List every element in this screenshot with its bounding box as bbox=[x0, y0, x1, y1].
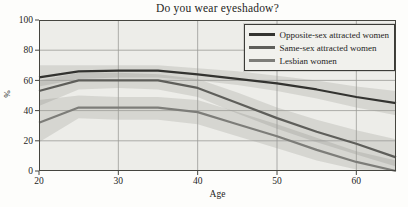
y-tick-label: 80 bbox=[24, 45, 34, 55]
y-axis-label: % bbox=[2, 90, 12, 98]
legend-line-swatch-same-sex bbox=[249, 46, 275, 50]
x-tick-label: 20 bbox=[34, 176, 44, 186]
legend-line-swatch-lesbian bbox=[249, 59, 275, 63]
chart-title: Do you wear eyeshadow? bbox=[39, 2, 396, 14]
legend-label: Lesbian women bbox=[280, 56, 337, 66]
legend-label: Same-sex attracted women bbox=[280, 43, 377, 53]
legend: Opposite-sex attracted women Same-sex at… bbox=[244, 24, 395, 71]
x-tick-label: 30 bbox=[114, 176, 124, 186]
legend-item-lesbian: Lesbian women bbox=[249, 54, 389, 67]
legend-label: Opposite-sex attracted women bbox=[280, 30, 389, 40]
legend-item-opposite-sex: Opposite-sex attracted women bbox=[249, 28, 389, 41]
eyeshadow-survey-chart: Do you wear eyeshadow? % 203040506002040… bbox=[0, 0, 408, 207]
legend-item-same-sex: Same-sex attracted women bbox=[249, 41, 389, 54]
x-tick-label: 50 bbox=[272, 176, 282, 186]
y-tick-label: 100 bbox=[19, 15, 34, 25]
y-tick-label: 20 bbox=[24, 136, 34, 146]
plot-area: 2030405060020406080100 Opposite-sex attr… bbox=[39, 20, 396, 171]
x-tick-label: 40 bbox=[193, 176, 203, 186]
y-tick-label: 0 bbox=[28, 166, 33, 176]
y-tick-label: 40 bbox=[24, 106, 34, 116]
legend-line-swatch-opposite-sex bbox=[249, 33, 275, 37]
x-axis-label: Age bbox=[39, 189, 396, 199]
x-tick-label: 60 bbox=[352, 176, 362, 186]
y-tick-label: 60 bbox=[24, 76, 34, 86]
